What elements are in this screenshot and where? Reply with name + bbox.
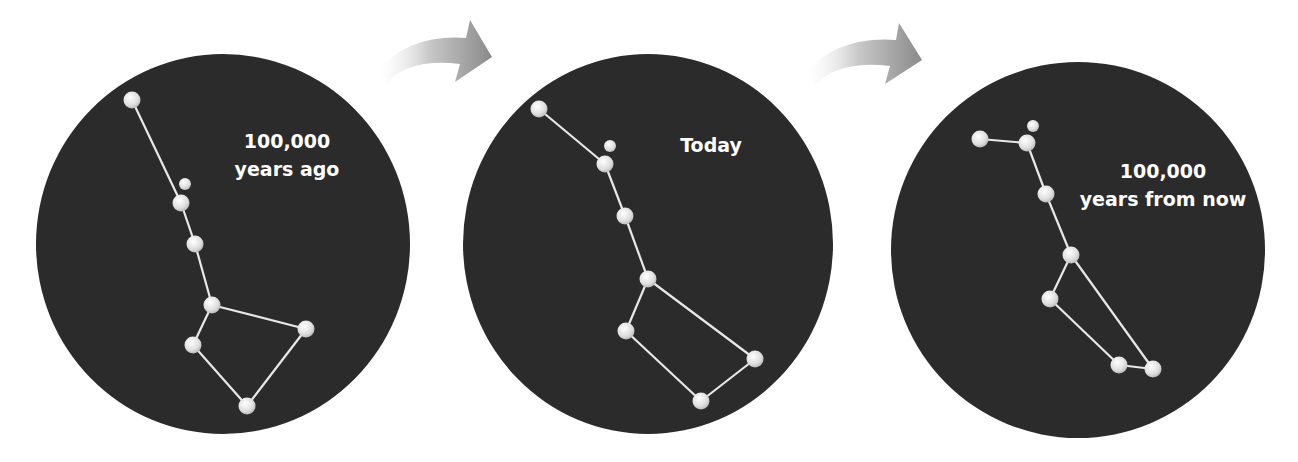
panel-today: Today: [463, 54, 833, 434]
star: [618, 323, 635, 340]
star: [597, 156, 614, 173]
panel-future: 100,000 years from now: [891, 62, 1265, 438]
star: [1145, 361, 1162, 378]
star-small: [179, 178, 191, 190]
star: [1042, 291, 1059, 308]
curved-arrow-icon: [806, 23, 922, 84]
star: [1038, 186, 1055, 203]
panel-label-line2: years from now: [1080, 188, 1247, 210]
star-small: [604, 140, 616, 152]
star: [239, 398, 256, 415]
star: [173, 195, 190, 212]
star: [972, 131, 989, 148]
sky-disc: [463, 54, 833, 434]
panel-label-line1: 100,000: [1120, 160, 1207, 182]
star: [298, 321, 315, 338]
star: [1063, 247, 1080, 264]
star: [187, 236, 204, 253]
star: [617, 208, 634, 225]
constellation-diagram: 100,000 years ago Today: [0, 0, 1298, 462]
panel-label-line2: years ago: [235, 158, 340, 180]
star: [185, 337, 202, 354]
star: [693, 393, 710, 410]
star: [204, 297, 221, 314]
arrow-past-to-today: [378, 20, 492, 82]
curved-arrow-icon: [378, 20, 492, 82]
star: [1019, 135, 1036, 152]
arrow-today-to-future: [806, 23, 922, 84]
panel-label-line1: 100,000: [244, 130, 331, 152]
panel-past: 100,000 years ago: [36, 54, 410, 434]
star: [640, 271, 657, 288]
star-small: [1027, 120, 1039, 132]
star: [1111, 357, 1128, 374]
sky-disc: [891, 62, 1265, 438]
star: [124, 92, 141, 109]
panel-label-line1: Today: [680, 134, 742, 156]
star: [747, 351, 764, 368]
sky-disc: [36, 54, 410, 434]
star: [531, 101, 548, 118]
